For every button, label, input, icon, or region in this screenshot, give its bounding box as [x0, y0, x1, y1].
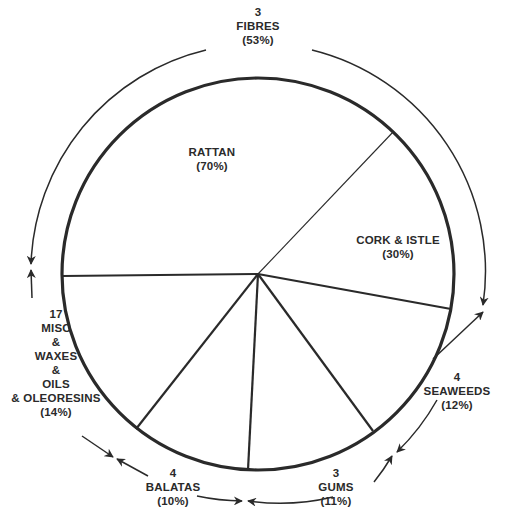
misc-line3: OILS: [42, 378, 70, 390]
pie-spokes: [63, 131, 451, 470]
cork-pct: (30%): [382, 248, 414, 260]
cork-name: CORK & ISTLE: [356, 234, 440, 246]
balatas-pct: (10%): [157, 495, 189, 507]
label-gums: 3 GUMS (11%): [318, 467, 353, 507]
gums-arc-top: [374, 456, 392, 482]
misc-pct: (14%): [40, 406, 72, 418]
misc-count: 17: [49, 308, 62, 320]
fibres-arc-left: [31, 50, 206, 264]
spoke-bottom: [248, 274, 258, 470]
misc-arc-bottom: [82, 436, 113, 457]
gums-name: GUMS: [318, 481, 353, 493]
label-misc: 17 MISC & WAXES & OILS & OLEORESINS (14%…: [11, 308, 100, 418]
rattan-name: RATTAN: [189, 146, 236, 158]
misc-line1: MISC: [41, 322, 71, 334]
balatas-arc-bottom: [197, 496, 242, 501]
pie-diagram: 3 FIBRES (53%) RATTAN (70%) CORK & ISTLE…: [0, 0, 505, 524]
rattan-pct: (70%): [196, 160, 228, 172]
fibres-arc-right: [312, 50, 485, 305]
balatas-arc-top: [117, 459, 148, 476]
misc-amp2: &: [52, 364, 61, 376]
spoke-lower-left: [136, 274, 258, 429]
spoke-rattan-cork: [258, 131, 394, 274]
balatas-name: BALATAS: [146, 481, 201, 493]
spoke-left: [63, 274, 258, 276]
fibres-count: 3: [255, 6, 262, 18]
misc-line2: WAXES: [35, 350, 78, 362]
misc-arc-top: [31, 270, 32, 298]
seaweeds-name: SEAWEEDS: [424, 385, 491, 397]
seaweeds-arc-top: [433, 312, 483, 359]
label-cork: CORK & ISTLE (30%): [356, 234, 440, 260]
seaweeds-count: 4: [454, 371, 461, 383]
fibres-pct: (53%): [242, 34, 274, 46]
label-fibres: 3 FIBRES (53%): [236, 6, 280, 46]
seaweeds-pct: (12%): [441, 399, 473, 411]
balatas-count: 4: [170, 467, 177, 479]
misc-line4: & OLEORESINS: [11, 392, 100, 404]
label-rattan: RATTAN (70%): [189, 146, 236, 172]
gums-count: 3: [333, 467, 340, 479]
misc-amp1: &: [52, 336, 61, 348]
spoke-right: [258, 274, 451, 309]
gums-pct: (11%): [320, 495, 351, 507]
label-balatas: 4 BALATAS (10%): [146, 467, 201, 507]
spoke-lower-right: [258, 274, 373, 431]
fibres-name: FIBRES: [236, 20, 280, 32]
